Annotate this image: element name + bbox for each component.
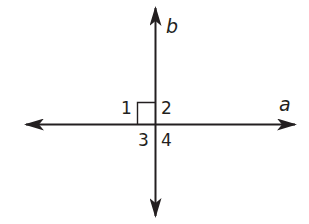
line-a-label: a bbox=[279, 93, 291, 115]
angle-2-label: 2 bbox=[161, 98, 172, 118]
angle-1-label: 1 bbox=[121, 98, 132, 118]
line-b-label: b bbox=[166, 15, 178, 37]
angle-3-label: 3 bbox=[138, 130, 149, 150]
diagram-svg: b a 1 2 3 4 bbox=[0, 0, 309, 224]
right-angle-marker bbox=[138, 103, 156, 125]
angle-4-label: 4 bbox=[161, 130, 172, 150]
perpendicular-lines-diagram: b a 1 2 3 4 bbox=[0, 0, 309, 224]
